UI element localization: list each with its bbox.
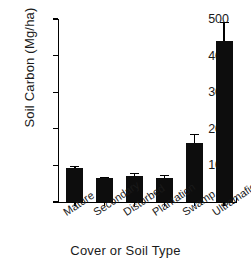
y-axis-tick-label: 500 <box>208 12 229 26</box>
error-bar-cap <box>160 175 169 176</box>
error-bar-cap <box>100 177 109 178</box>
bar <box>216 41 233 202</box>
error-bar-cap <box>130 173 139 174</box>
y-axis-tick <box>53 128 58 129</box>
y-axis-line <box>58 19 59 202</box>
error-bar-line <box>194 134 195 143</box>
y-axis-tick <box>53 165 58 166</box>
bar-chart-figure: Soil Carbon (Mg/ha) 0100200300400500 Mat… <box>0 0 251 267</box>
error-bar-cap <box>220 22 229 23</box>
y-axis-tick <box>53 18 58 19</box>
y-axis-title: Soil Carbon (Mg/ha) <box>22 0 37 143</box>
y-axis-tick <box>53 201 58 202</box>
plot-area: 0100200300400500 <box>58 19 237 202</box>
y-axis-tick <box>53 92 58 93</box>
error-bar-line <box>223 22 224 41</box>
error-bar-cap <box>190 134 199 135</box>
x-axis-title: Cover or Soil Type <box>0 243 251 258</box>
error-bar-cap <box>70 166 79 167</box>
y-axis-tick <box>53 55 58 56</box>
